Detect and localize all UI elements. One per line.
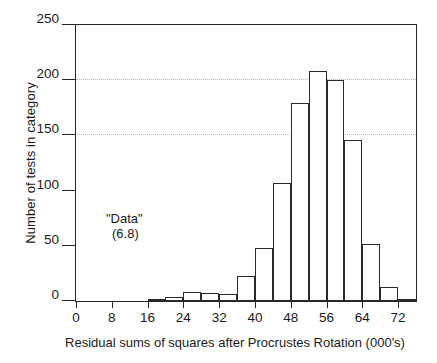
y-tick-mark [62,24,76,25]
y-tick-mark [62,300,76,301]
histogram-bar [398,299,416,301]
histogram-bar [255,248,273,301]
x-tick-label: 0 [72,310,80,325]
x-tick-mark [112,301,113,308]
x-tick-label: 64 [355,310,370,325]
x-tick-mark [183,301,184,308]
x-tick-mark [255,301,256,308]
x-tick-label: 24 [176,310,191,325]
histogram-bar [362,244,380,301]
histogram-bar [201,293,219,301]
histogram-bar [309,71,327,301]
y-tick-mark [62,134,76,135]
histogram-bar [183,292,201,301]
annotation-line-2: (6.8) [106,226,143,241]
y-tick-label: 150 [36,121,59,136]
data-annotation: "Data" (6.8) [106,211,143,241]
x-tick-mark [327,301,328,308]
x-tick-label: 40 [247,310,262,325]
x-tick-mark [291,301,292,308]
x-tick-mark [148,301,149,308]
x-tick-label: 48 [283,310,298,325]
histogram-bar [148,299,166,301]
y-tick-mark [62,245,76,246]
histogram-bar [273,183,291,301]
annotation-line-1: "Data" [106,211,143,226]
histogram-bar [291,103,309,301]
x-tick-label: 72 [391,310,406,325]
histogram-bar [219,294,237,301]
histogram-bar [380,287,398,301]
x-tick-mark [219,301,220,308]
y-tick-mark [62,190,76,191]
x-axis-title: Residual sums of squares after Procruste… [40,335,430,350]
y-tick-label: 250 [36,11,59,26]
histogram-bar [344,140,362,301]
y-tick-label: 50 [44,231,59,246]
x-tick-mark [398,301,399,308]
x-tick-label: 56 [319,310,334,325]
x-tick-label: 8 [108,310,116,325]
x-tick-mark [76,301,77,308]
bar-series [76,25,416,301]
y-tick-mark [62,79,76,80]
x-tick-mark [362,301,363,308]
x-tick-label: 16 [140,310,155,325]
x-tick-label: 32 [212,310,227,325]
y-tick-label: 200 [36,66,59,81]
histogram-bar [327,80,345,301]
histogram-figure: Number of tests in category 050100150200… [0,0,437,363]
y-tick-label: 0 [51,287,59,302]
histogram-bar [165,297,183,301]
y-tick-label: 100 [36,176,59,191]
histogram-bar [237,276,255,301]
plot-area: 050100150200250 081624324048566472 "Data… [75,24,417,302]
